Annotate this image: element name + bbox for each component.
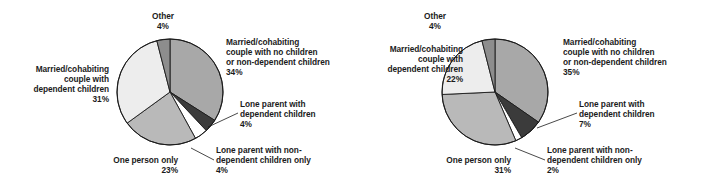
pie-label-lone-parent-dependent: Lone parent with dependent children4% [240, 99, 354, 129]
pie-label-percent: 4% [133, 21, 193, 31]
pie-label-percent: 4% [216, 165, 346, 175]
pie-label-percent: 7% [579, 119, 693, 129]
pie-label-text: Lone parent with dependent children [240, 99, 316, 119]
pie-label-one-person-only: One person only31% [393, 155, 511, 175]
pie-label-text: One person only [446, 155, 511, 165]
pie-label-one-person-only: One person only23% [60, 155, 178, 175]
pie-label-percent: 23% [60, 165, 178, 175]
pie-label-percent: 35% [563, 67, 703, 77]
pie-label-percent: 34% [226, 67, 358, 77]
two-pie-chart-figure: Married/cohabiting couple with no childr… [0, 0, 711, 188]
leader-line [515, 148, 545, 160]
pie-label-text: Other [424, 11, 446, 21]
pie-label-percent: 31% [393, 165, 511, 175]
pie-label-lone-parent-non-dependent: Lone parent with non- dependent children… [547, 145, 677, 175]
pie-label-text: One person only [113, 155, 178, 165]
pie-label-lone-parent-non-dependent: Lone parent with non- dependent children… [216, 145, 346, 175]
pie-label-percent: 4% [405, 21, 465, 31]
pie-label-married-dependent-children: Married/cohabiting couple with dependent… [3, 64, 109, 104]
pie-label-other: Other4% [133, 11, 193, 31]
pie-label-percent: 31% [3, 94, 109, 104]
pie-label-text: Married/cohabiting couple with no childr… [563, 37, 667, 67]
pie-label-lone-parent-dependent: Lone parent with dependent children7% [579, 99, 693, 129]
leader-line [191, 148, 214, 160]
pie-label-married-no-children: Married/cohabiting couple with no childr… [226, 37, 358, 77]
pie-chart-panel-right: Married/cohabiting couple with no childr… [355, 0, 710, 188]
pie-label-other: Other4% [405, 11, 465, 31]
pie-label-percent: 22% [355, 74, 463, 84]
pie-label-text: Married/cohabiting couple with dependent… [387, 44, 463, 74]
pie-label-married-dependent-children: Married/cohabiting couple with dependent… [355, 44, 463, 84]
pie-label-text: Married/cohabiting couple with no childr… [226, 37, 330, 67]
pie-label-percent: 4% [240, 119, 354, 129]
pie-label-text: Married/cohabiting couple with dependent… [33, 64, 109, 94]
pie-label-percent: 2% [547, 165, 677, 175]
pie-label-text: Lone parent with dependent children [579, 99, 655, 119]
pie-label-married-no-children: Married/cohabiting couple with no childr… [563, 37, 703, 77]
pie-label-text: Lone parent with non- dependent children… [216, 145, 311, 165]
pie-chart-panel-left: Married/cohabiting couple with no childr… [0, 0, 355, 188]
pie-label-text: Other [152, 11, 174, 21]
pie-label-text: Lone parent with non- dependent children… [547, 145, 642, 165]
